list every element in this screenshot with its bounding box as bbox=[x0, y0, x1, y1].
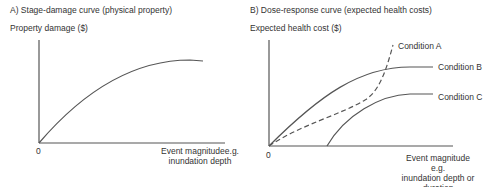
panel-a-axes bbox=[39, 40, 225, 143]
chart-canvas bbox=[0, 0, 490, 187]
panel-b-axes bbox=[269, 40, 453, 146]
condition-a-curve bbox=[269, 45, 393, 146]
panel-a-curve bbox=[39, 60, 203, 143]
condition-c-curve bbox=[327, 94, 433, 146]
condition-b-curve bbox=[269, 67, 433, 146]
